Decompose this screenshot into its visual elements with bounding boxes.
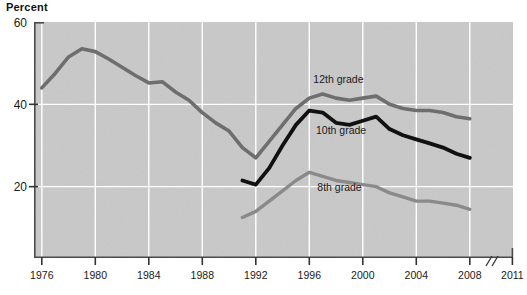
line-chart: 60 40 20 1976 1980 1984 1988 1992 1996 2… [0, 0, 527, 295]
y-tick-label: 60 [14, 16, 28, 30]
chart-figure: Percent [0, 0, 527, 295]
y-tick-labels: 60 40 20 [14, 16, 28, 194]
x-tick-label: 2008 [458, 269, 482, 281]
y-tick-label: 40 [14, 98, 28, 112]
x-tick-label: 1980 [84, 269, 108, 281]
x-tick-label: 1988 [191, 269, 215, 281]
x-tick-label: 1992 [244, 269, 268, 281]
x-tick-label: 1996 [298, 269, 322, 281]
series-label-8th-grade: 8th grade [317, 181, 362, 193]
series-label-10th-grade: 10th grade [316, 124, 366, 136]
x-tick-label: 2011 [501, 269, 524, 281]
series-label-12th-grade: 12th grade [313, 73, 363, 85]
x-tick-label: 1976 [30, 269, 54, 281]
y-tick-label: 20 [14, 180, 28, 194]
x-tick-marks [42, 257, 513, 265]
x-tick-labels: 1976 1980 1984 1988 1992 1996 2000 2004 … [30, 269, 524, 281]
x-tick-label: 2004 [405, 269, 429, 281]
x-tick-label: 2000 [351, 269, 375, 281]
x-tick-label: 1984 [137, 269, 161, 281]
